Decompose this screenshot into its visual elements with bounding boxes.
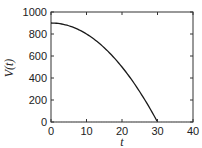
series-line <box>51 23 158 122</box>
x-tick-label: 10 <box>80 125 92 137</box>
chart: 010203040 02004006008001000 t V(t) <box>0 0 202 148</box>
x-axis: 010203040 <box>48 12 199 137</box>
x-tick-label: 40 <box>187 125 199 137</box>
plot-area <box>51 12 193 122</box>
y-tick-label: 200 <box>29 94 47 106</box>
y-tick-label: 600 <box>29 50 47 62</box>
y-tick-label: 0 <box>41 116 47 128</box>
y-tick-label: 400 <box>29 72 47 84</box>
y-tick-label: 1000 <box>23 6 47 18</box>
x-tick-label: 30 <box>151 125 163 137</box>
y-tick-label: 800 <box>29 28 47 40</box>
y-axis: 02004006008001000 <box>23 6 193 128</box>
x-tick-label: 0 <box>48 125 54 137</box>
y-axis-label: V(t) <box>2 59 16 78</box>
